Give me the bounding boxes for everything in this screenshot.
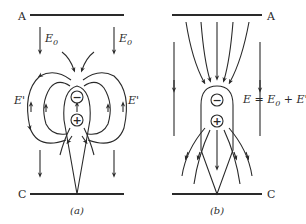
negative-sign-a: − bbox=[72, 91, 81, 104]
field-line-bottom-2 bbox=[194, 130, 210, 184]
caption-b: (b) bbox=[210, 205, 224, 216]
panel-a: A C E0 E0 E' E' bbox=[13, 10, 139, 216]
field-line-in-right bbox=[82, 52, 94, 70]
label-e0-right: E0 bbox=[118, 32, 132, 47]
field-diagram: A C E0 E0 E' E' bbox=[0, 0, 306, 224]
field-line-bottom-4 bbox=[224, 130, 240, 184]
field-loop-inner-right bbox=[84, 82, 110, 134]
panel-b: A C − + E = E0 + E' (b) bbox=[172, 10, 306, 216]
field-line-top-4 bbox=[224, 22, 233, 80]
label-induced-left: E' bbox=[13, 94, 25, 107]
plate-label-top-a: A bbox=[17, 10, 27, 23]
plate-label-top-b: A bbox=[266, 10, 276, 23]
label-e0-left: E0 bbox=[44, 32, 58, 47]
field-loop-inner-left bbox=[44, 82, 70, 134]
positive-sign-b: + bbox=[212, 115, 221, 128]
negative-sign-b: − bbox=[212, 94, 221, 107]
field-line-top-5 bbox=[230, 22, 249, 82]
field-line-in-left bbox=[62, 52, 74, 70]
label-induced-right: E' bbox=[127, 94, 139, 107]
plate-label-bottom-a: C bbox=[18, 188, 26, 201]
plate-label-bottom-b: C bbox=[267, 188, 275, 201]
arrow-low-right bbox=[82, 136, 86, 142]
arrow-low-left bbox=[68, 136, 72, 142]
positive-sign-a: + bbox=[72, 114, 81, 127]
field-line-top-2 bbox=[201, 22, 210, 80]
caption-a: (a) bbox=[70, 205, 84, 216]
equation-label: E = E0 + E' bbox=[242, 93, 306, 108]
